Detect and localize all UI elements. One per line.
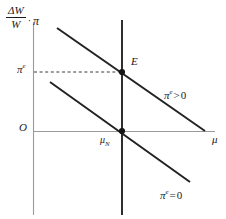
y-axis-label: ΔW W · π — [6, 5, 39, 30]
mu-n-label: μN — [100, 135, 110, 148]
pi-e-axis-tick-label: πe — [17, 64, 26, 75]
curve-pos-relation: > — [173, 89, 181, 101]
x-axis-label: μ — [212, 134, 218, 145]
curve-label-pi-e-zero: πe=0 — [160, 190, 182, 201]
pi-e-exponent: e — [23, 62, 26, 69]
pi-symbol: π — [33, 15, 39, 27]
curve-pos-value: 0 — [181, 89, 187, 101]
curve-label-pi-e-positive: πe>0 — [164, 90, 186, 101]
mu-n-subscript: N — [105, 140, 110, 147]
equilibrium-point-label: E — [131, 56, 138, 67]
fraction-numerator: ΔW — [6, 5, 26, 17]
curve-zero-relation: = — [169, 189, 177, 201]
curve-zero-value: 0 — [177, 189, 183, 201]
delta-w-over-w-fraction: ΔW W — [6, 5, 26, 30]
equilibrium-point-dot — [119, 69, 125, 75]
natural-rate-point-dot — [119, 128, 125, 134]
plot-canvas — [0, 0, 226, 219]
origin-label: O — [19, 122, 27, 133]
phillips-curve-figure: ΔW W · π πe O μN E μ πe>0 πe=0 — [0, 0, 226, 219]
phillips-curve-positive-line — [57, 28, 205, 131]
multiplication-dot: · — [26, 16, 33, 26]
fraction-denominator: W — [9, 18, 22, 30]
